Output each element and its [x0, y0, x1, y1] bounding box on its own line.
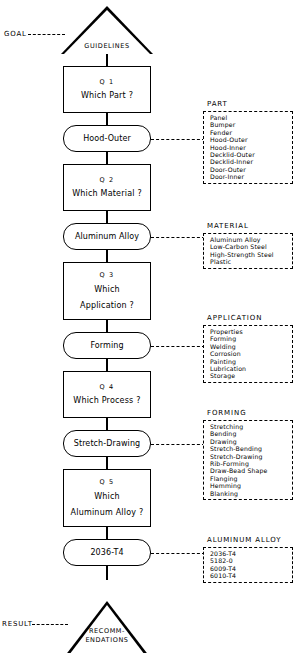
option-item[interactable]: Flanging — [210, 475, 288, 482]
option-item[interactable]: Stretch-Bending — [210, 445, 288, 452]
question-text-q4: Which Process ? — [73, 396, 140, 406]
options-list-box-forming[interactable]: Stretching Bending Drawing Stretch-Bendi… — [203, 420, 293, 500]
leader-material-panel — [151, 237, 205, 238]
leader-application-panel — [151, 346, 205, 347]
result-terminal-label-line1: RECOMM- — [89, 627, 125, 635]
option-item[interactable]: Aluminum Alloy — [210, 236, 288, 243]
question-text-q3-line1: Which — [94, 285, 120, 295]
connector-answer3-q4 — [106, 359, 108, 371]
option-item[interactable]: Decklid-Outer — [210, 151, 288, 158]
option-item[interactable]: Corrosion — [210, 350, 288, 357]
options-list-box-alloy[interactable]: 2036-T4 5182-0 6009-T4 6010-T4 — [203, 547, 293, 583]
question-id-q3: Q 3 — [100, 271, 115, 279]
option-item[interactable]: Welding — [210, 343, 288, 350]
options-panel-forming: FORMING Stretching Bending Drawing Stret… — [203, 409, 293, 500]
options-panel-title-alloy: ALUMINUM ALLOY — [207, 536, 293, 544]
connector-answer1-q2 — [106, 152, 108, 164]
options-list-box-application[interactable]: Properties Forming Welding Corrosion Pai… — [203, 325, 293, 383]
question-text-q5-line1: Which — [94, 492, 120, 502]
goal-leader-line — [28, 34, 65, 35]
option-item[interactable]: 5182-0 — [210, 557, 288, 564]
answer-node-process[interactable]: Stretch-Drawing — [63, 430, 151, 457]
option-item[interactable]: Drawing — [210, 438, 288, 445]
option-item[interactable]: Bumper — [210, 121, 288, 128]
option-item[interactable]: Hemming — [210, 482, 288, 489]
option-item[interactable]: Hood-Outer — [210, 136, 288, 143]
goal-terminal-label: GUIDELINES — [61, 42, 153, 51]
question-text-q2: Which Material ? — [72, 189, 142, 199]
option-item[interactable]: Bending — [210, 430, 288, 437]
option-item[interactable]: Stretching — [210, 423, 288, 430]
option-item[interactable]: Door-Inner — [210, 173, 288, 180]
answer-node-material[interactable]: Aluminum Alloy — [63, 223, 151, 250]
option-item[interactable]: 6009-T4 — [210, 565, 288, 572]
answer-node-alloy[interactable]: 2036-T4 — [63, 539, 151, 566]
leader-forming-panel — [151, 444, 205, 445]
options-panel-alloy: ALUMINUM ALLOY 2036-T4 5182-0 6009-T4 60… — [203, 536, 293, 583]
result-terminal-label: RECOMM- ENDATIONS — [61, 627, 153, 645]
question-id-q5: Q 5 — [100, 478, 115, 486]
flowchart-canvas: GUIDELINES GOAL Q 1 Which Part ? Hood-Ou… — [0, 0, 298, 653]
connector-q3-answer3 — [106, 320, 108, 332]
result-leader-line — [32, 624, 68, 625]
question-text-q1: Which Part ? — [81, 91, 133, 101]
option-item[interactable]: Rib-Forming — [210, 460, 288, 467]
option-item[interactable]: 6010-T4 — [210, 572, 288, 579]
leader-part-panel — [151, 139, 205, 140]
connector-answer4-q5 — [106, 457, 108, 469]
option-item[interactable]: Plastic — [210, 258, 288, 265]
question-id-q1: Q 1 — [100, 78, 115, 86]
options-panel-application: APPLICATION Properties Forming Welding C… — [203, 314, 293, 383]
option-item[interactable]: Draw-Bead Shape — [210, 467, 288, 474]
option-item[interactable]: Hood-Inner — [210, 144, 288, 151]
connector-goal-q1 — [106, 54, 108, 66]
question-id-q4: Q 4 — [100, 383, 115, 391]
options-panel-title-material: MATERIAL — [207, 222, 293, 230]
option-item[interactable]: Stretch-Drawing — [210, 453, 288, 460]
options-panel-title-part: PART — [207, 100, 293, 108]
options-list-box-material[interactable]: Aluminum Alloy Low-Carbon Steel High-Str… — [203, 233, 293, 269]
option-item[interactable]: Forming — [210, 335, 288, 342]
option-item[interactable]: Blanking — [210, 490, 288, 497]
question-node-q1[interactable]: Q 1 Which Part ? — [63, 66, 151, 113]
question-node-q4[interactable]: Q 4 Which Process ? — [63, 371, 151, 418]
connector-answer2-q3 — [106, 250, 108, 262]
question-node-q2[interactable]: Q 2 Which Material ? — [63, 164, 151, 211]
option-item[interactable]: Panel — [210, 114, 288, 121]
option-item[interactable]: High-Strength Steel — [210, 251, 288, 258]
option-item[interactable]: Door-Outer — [210, 166, 288, 173]
result-terminal-label-line2: ENDATIONS — [85, 636, 128, 644]
connector-q1-answer1 — [106, 113, 108, 125]
option-item[interactable]: Low-Carbon Steel — [210, 243, 288, 250]
option-item[interactable]: Storage — [210, 372, 288, 379]
goal-caption: GOAL — [4, 30, 27, 38]
connector-answer5-result — [106, 566, 108, 580]
answer-node-application[interactable]: Forming — [63, 332, 151, 359]
option-item[interactable]: Lubrication — [210, 365, 288, 372]
connector-q4-answer4 — [106, 418, 108, 430]
answer-label-alloy: 2036-T4 — [90, 548, 123, 558]
answer-label-application: Forming — [90, 341, 123, 351]
options-panel-title-application: APPLICATION — [207, 314, 293, 322]
options-panel-title-forming: FORMING — [207, 409, 293, 417]
options-panel-part: PART Panel Bumper Fender Hood-Outer Hood… — [203, 100, 293, 184]
options-list-box-part[interactable]: Panel Bumper Fender Hood-Outer Hood-Inne… — [203, 111, 293, 184]
connector-q5-answer5 — [106, 527, 108, 539]
option-item[interactable]: 2036-T4 — [210, 550, 288, 557]
answer-node-part[interactable]: Hood-Outer — [63, 125, 151, 152]
options-panel-material: MATERIAL Aluminum Alloy Low-Carbon Steel… — [203, 222, 293, 269]
question-text-q5-line2: Aluminum Alloy ? — [71, 508, 144, 518]
result-caption: RESULT — [2, 620, 33, 628]
connector-q2-answer2 — [106, 211, 108, 223]
question-node-q3[interactable]: Q 3 Which Application ? — [63, 262, 151, 320]
option-item[interactable]: Decklid-Inner — [210, 158, 288, 165]
option-item[interactable]: Fender — [210, 129, 288, 136]
question-id-q2: Q 2 — [100, 176, 115, 184]
answer-label-part: Hood-Outer — [83, 134, 131, 144]
question-text-q3-line2: Application ? — [80, 301, 134, 311]
question-node-q5[interactable]: Q 5 Which Aluminum Alloy ? — [63, 469, 151, 527]
option-item[interactable]: Properties — [210, 328, 288, 335]
answer-label-process: Stretch-Drawing — [74, 439, 141, 449]
option-item[interactable]: Painting — [210, 358, 288, 365]
answer-label-material: Aluminum Alloy — [75, 232, 139, 242]
